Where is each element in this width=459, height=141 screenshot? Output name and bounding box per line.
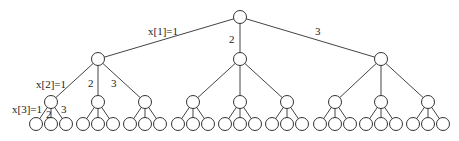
tree-node-leaf bbox=[422, 118, 435, 131]
edge-label-x3-eq-1: x[3]=1 bbox=[12, 103, 42, 115]
search-tree-diagram: x[1]=1 2 3 x[2]=1 2 3 x[3]=1 2 3 bbox=[0, 0, 459, 141]
tree-node-leaf bbox=[92, 118, 105, 131]
tree-edge bbox=[98, 17, 240, 59]
tree-node-leaf bbox=[139, 118, 152, 131]
edge-label-x1-eq-1: x[1]=1 bbox=[148, 25, 178, 37]
tree-node-leaf bbox=[124, 118, 137, 131]
tree-node-leaf bbox=[154, 118, 167, 131]
tree-node-level1 bbox=[375, 53, 388, 66]
tree-edge bbox=[240, 59, 287, 102]
tree-node-leaf bbox=[219, 118, 232, 131]
tree-node-level2 bbox=[281, 96, 294, 109]
tree-node-level2 bbox=[45, 96, 58, 109]
tree-node-leaf bbox=[172, 118, 185, 131]
tree-edge bbox=[381, 59, 428, 102]
tree-node-leaf bbox=[314, 118, 327, 131]
tree-node-leaf bbox=[234, 118, 247, 131]
tree-edge bbox=[193, 59, 240, 102]
tree-node-leaf bbox=[266, 118, 279, 131]
tree-node-leaf bbox=[60, 118, 73, 131]
tree-node-level2 bbox=[187, 96, 200, 109]
tree-node-leaf bbox=[77, 118, 90, 131]
tree-node-level2 bbox=[375, 96, 388, 109]
tree-node-level2 bbox=[139, 96, 152, 109]
tree-node-leaf bbox=[375, 118, 388, 131]
edge-label-x2-eq-3: 3 bbox=[111, 77, 117, 89]
tree-node-leaf bbox=[329, 118, 342, 131]
edge-label-x2-eq-1: x[2]=1 bbox=[36, 78, 66, 90]
tree-node-level2 bbox=[234, 96, 247, 109]
edge-label-x1-eq-3: 3 bbox=[315, 25, 321, 37]
edge-label-x2-eq-2: 2 bbox=[88, 77, 94, 89]
tree-node-leaf bbox=[107, 118, 120, 131]
tree-node-leaf bbox=[437, 118, 450, 131]
tree-node-leaf bbox=[344, 118, 357, 131]
tree-node-level1 bbox=[92, 53, 105, 66]
tree-node-level2 bbox=[329, 96, 342, 109]
tree-node-leaf bbox=[281, 118, 294, 131]
tree-edge bbox=[335, 59, 381, 102]
edge-label-x1-eq-2: 2 bbox=[229, 33, 235, 45]
tree-node-leaf bbox=[202, 118, 215, 131]
tree-edge bbox=[240, 17, 381, 59]
tree-node-level1 bbox=[234, 53, 247, 66]
tree-node-root bbox=[234, 11, 247, 24]
tree-node-leaf bbox=[360, 118, 373, 131]
tree-node-leaf bbox=[30, 118, 43, 131]
tree-edge bbox=[98, 59, 145, 102]
edge-label-x3-eq-3: 3 bbox=[61, 103, 67, 115]
edge-label-x3-eq-2: 2 bbox=[46, 108, 52, 120]
tree-node-leaf bbox=[249, 118, 262, 131]
tree-node-leaf bbox=[187, 118, 200, 131]
tree-node-leaf bbox=[407, 118, 420, 131]
tree-node-level2 bbox=[92, 96, 105, 109]
tree-node-level2 bbox=[422, 96, 435, 109]
tree-node-leaf bbox=[390, 118, 403, 131]
tree-node-leaf bbox=[296, 118, 309, 131]
